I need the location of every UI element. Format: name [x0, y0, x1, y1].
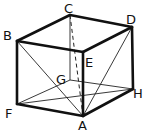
cube-diagram: ABCDEFGH — [0, 0, 145, 132]
vertex-label-D: D — [126, 12, 136, 27]
vertex-label-B: B — [3, 28, 12, 43]
vertex-label-A: A — [78, 118, 87, 132]
thick-edge-CD — [70, 15, 132, 27]
vertex-label-C: C — [64, 1, 73, 16]
thick-edge-BE — [17, 41, 83, 52]
thick-edge-FA — [17, 104, 83, 116]
vertex-label-H: H — [133, 86, 143, 101]
thick-edges — [17, 15, 133, 116]
vertex-label-E: E — [85, 55, 93, 70]
thick-edge-BC — [17, 15, 70, 41]
dashed-edges — [70, 15, 83, 116]
thin-edges — [17, 15, 133, 116]
dashed-edge-CA — [70, 15, 83, 116]
vertex-label-G: G — [56, 72, 66, 87]
vertex-label-F: F — [5, 106, 12, 121]
vertex-labels: ABCDEFGH — [3, 1, 143, 132]
thick-edge-HD — [132, 27, 133, 89]
